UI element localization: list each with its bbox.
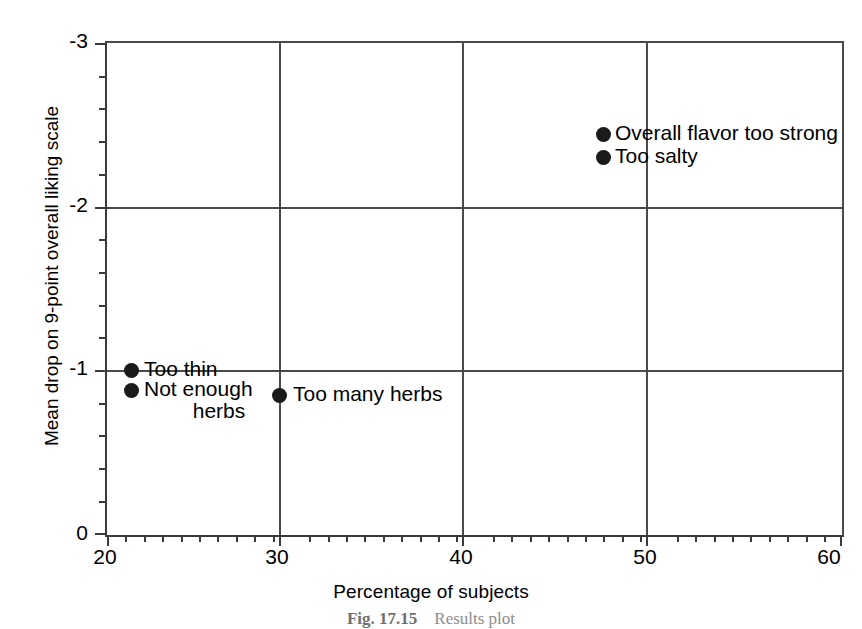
y-tick-label-minus1: -1 bbox=[28, 356, 88, 380]
x-tick-label-30: 30 bbox=[242, 545, 312, 569]
x-tick-label-20: 20 bbox=[70, 545, 140, 569]
x-minor-tick bbox=[750, 535, 752, 542]
data-point-overall-flavor-too-strong[interactable] bbox=[596, 127, 611, 142]
x-minor-tick bbox=[217, 535, 219, 542]
gridline-y-minus2 bbox=[107, 207, 842, 209]
x-minor-tick bbox=[603, 535, 605, 542]
y-minor-tick bbox=[99, 337, 107, 339]
x-minor-tick bbox=[787, 535, 789, 542]
x-minor-tick bbox=[199, 535, 201, 542]
y-major-tick-minus1 bbox=[95, 370, 107, 372]
x-minor-tick bbox=[695, 535, 697, 542]
gridline-x-40 bbox=[462, 43, 464, 535]
x-minor-tick bbox=[677, 535, 679, 542]
x-major-tick-40 bbox=[462, 535, 464, 546]
x-minor-tick bbox=[530, 535, 532, 542]
y-minor-tick bbox=[99, 435, 107, 437]
x-tick-label-50: 50 bbox=[610, 545, 680, 569]
x-minor-tick bbox=[732, 535, 734, 542]
x-major-tick-60 bbox=[840, 535, 842, 546]
x-minor-tick bbox=[438, 535, 440, 542]
x-minor-tick bbox=[346, 535, 348, 542]
x-minor-tick bbox=[769, 535, 771, 542]
y-major-tick-minus3 bbox=[95, 43, 107, 45]
x-minor-tick bbox=[806, 535, 808, 542]
x-minor-tick bbox=[640, 535, 642, 542]
figure-number: Fig. 17.15 bbox=[347, 609, 417, 628]
gridline-x-50 bbox=[646, 43, 648, 535]
plot-area: Overall flavor too strong Too salty Too … bbox=[105, 41, 844, 537]
y-axis-title: Mean drop on 9-point overall liking scal… bbox=[41, 0, 63, 556]
x-major-tick-50 bbox=[646, 535, 648, 546]
x-minor-tick bbox=[714, 535, 716, 542]
data-label-not-enough-herbs: Not enough herbs bbox=[144, 378, 294, 421]
data-label-overall-flavor-too-strong: Overall flavor too strong bbox=[615, 122, 838, 144]
data-point-too-salty[interactable] bbox=[596, 150, 611, 165]
x-minor-tick bbox=[364, 535, 366, 542]
y-major-tick-minus2 bbox=[95, 207, 107, 209]
x-axis-title: Percentage of subjects bbox=[0, 581, 862, 603]
data-label-too-salty: Too salty bbox=[615, 145, 698, 167]
x-minor-tick bbox=[456, 535, 458, 542]
x-minor-tick bbox=[309, 535, 311, 542]
x-minor-tick bbox=[622, 535, 624, 542]
y-tick-label-minus3: -3 bbox=[28, 29, 88, 53]
y-major-tick-zero bbox=[95, 533, 107, 535]
x-minor-tick bbox=[493, 535, 495, 542]
data-point-too-thin[interactable] bbox=[124, 363, 139, 378]
y-minor-tick bbox=[99, 174, 107, 176]
y-minor-tick bbox=[99, 501, 107, 503]
x-minor-tick bbox=[824, 535, 826, 542]
gridline-x-30 bbox=[279, 43, 281, 535]
data-label-not-enough-herbs-line1: Not enough bbox=[144, 377, 253, 400]
figure-caption: Fig. 17.15 Results plot bbox=[0, 609, 862, 629]
x-minor-tick bbox=[328, 535, 330, 542]
y-minor-tick bbox=[99, 468, 107, 470]
x-minor-tick bbox=[420, 535, 422, 542]
x-minor-tick bbox=[181, 535, 183, 542]
y-minor-tick bbox=[99, 141, 107, 143]
y-tick-label-zero: 0 bbox=[28, 521, 88, 545]
x-minor-tick bbox=[273, 535, 275, 542]
y-minor-tick bbox=[99, 272, 107, 274]
data-point-not-enough-herbs[interactable] bbox=[124, 383, 139, 398]
y-minor-tick bbox=[99, 305, 107, 307]
y-minor-tick bbox=[99, 403, 107, 405]
figure-caption-text: Results plot bbox=[434, 609, 515, 628]
x-minor-tick bbox=[511, 535, 513, 542]
y-minor-tick bbox=[99, 108, 107, 110]
x-minor-tick bbox=[125, 535, 127, 542]
x-minor-tick bbox=[567, 535, 569, 542]
x-minor-tick bbox=[401, 535, 403, 542]
x-tick-label-40: 40 bbox=[426, 545, 496, 569]
data-label-not-enough-herbs-line2: herbs bbox=[144, 400, 294, 422]
x-minor-tick bbox=[548, 535, 550, 542]
x-major-tick-30 bbox=[279, 535, 281, 546]
x-minor-tick bbox=[144, 535, 146, 542]
x-minor-tick bbox=[585, 535, 587, 542]
x-minor-tick bbox=[254, 535, 256, 542]
y-tick-label-minus2: -2 bbox=[28, 193, 88, 217]
y-minor-tick bbox=[99, 76, 107, 78]
y-minor-tick bbox=[99, 239, 107, 241]
data-point-too-many-herbs[interactable] bbox=[272, 388, 287, 403]
x-tick-label-60: 60 bbox=[794, 545, 862, 569]
x-minor-tick bbox=[383, 535, 385, 542]
x-minor-tick bbox=[236, 535, 238, 542]
x-minor-tick bbox=[162, 535, 164, 542]
data-label-too-many-herbs: Too many herbs bbox=[293, 383, 442, 405]
x-major-tick-20 bbox=[107, 535, 109, 546]
